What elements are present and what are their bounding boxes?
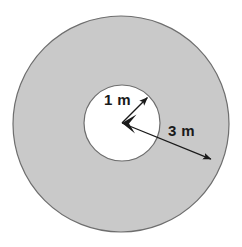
inner-radius-label: 1 m bbox=[104, 92, 131, 107]
annulus-diagram-svg bbox=[0, 0, 242, 247]
outer-radius-label: 3 m bbox=[168, 123, 195, 138]
annulus-figure: 1 m 3 m bbox=[0, 0, 242, 247]
